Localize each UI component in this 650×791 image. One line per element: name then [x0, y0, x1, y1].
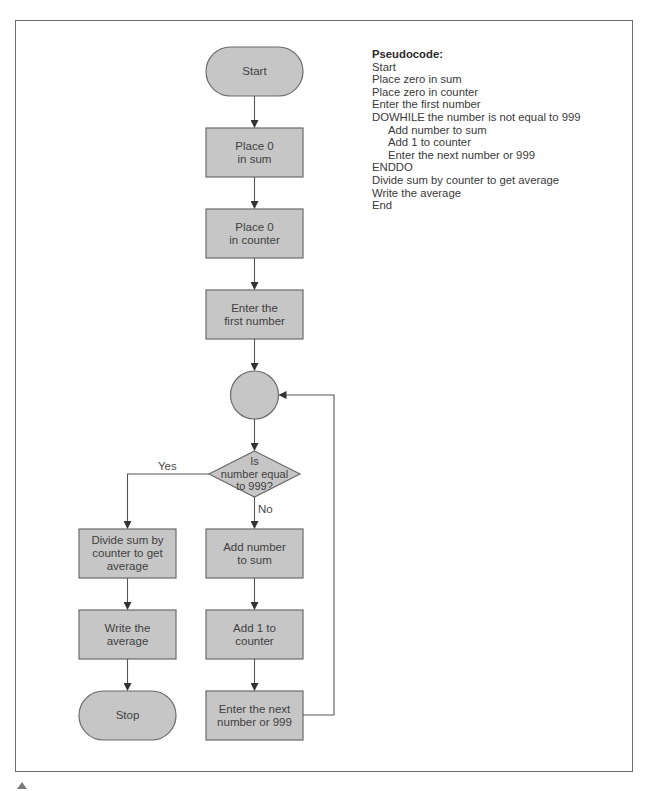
pseudocode-line: DOWHILE the number is not equal to 999	[372, 111, 580, 124]
no-label: No	[258, 503, 273, 515]
triangle-marker-icon	[17, 782, 27, 789]
input-enter-first	[206, 290, 303, 339]
pseudocode-block: Pseudocode: Start Place zero in sum Plac…	[372, 48, 580, 212]
pseudocode-line: Start	[372, 61, 580, 74]
output-write	[79, 610, 176, 659]
loop-connector	[231, 371, 279, 419]
decision-diamond	[209, 451, 300, 497]
process-place-sum	[206, 128, 303, 177]
process-add-number	[206, 529, 303, 578]
stop-terminator	[79, 691, 176, 740]
pseudocode-line: ENDDO	[372, 161, 580, 174]
pseudocode-line: Write the average	[372, 187, 580, 200]
pseudocode-line: Add number to sum	[372, 124, 580, 137]
process-divide	[79, 529, 176, 578]
pseudocode-line: End	[372, 199, 580, 212]
pseudocode-line: Enter the first number	[372, 98, 580, 111]
pseudocode-line: Place zero in counter	[372, 86, 580, 99]
process-place-counter	[206, 209, 303, 258]
pseudocode-line: Add 1 to counter	[372, 136, 580, 149]
yes-label: Yes	[158, 460, 177, 472]
pseudocode-line: Divide sum by counter to get average	[372, 174, 580, 187]
start-terminator	[206, 47, 303, 96]
pseudocode-line: Place zero in sum	[372, 73, 580, 86]
process-add-one	[206, 610, 303, 659]
input-enter-next	[206, 691, 303, 740]
pseudocode-line: Enter the next number or 999	[372, 149, 580, 162]
pseudocode-title: Pseudocode:	[372, 48, 580, 61]
